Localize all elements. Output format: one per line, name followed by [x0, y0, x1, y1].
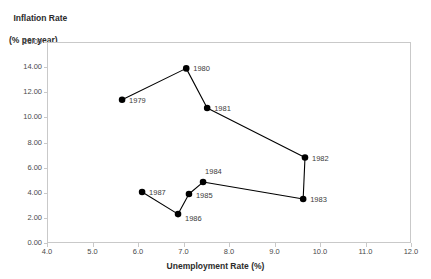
data-point-marker: [175, 211, 182, 218]
x-axis-title: Unemployment Rate (%): [0, 261, 431, 271]
data-point-label: 1983: [310, 196, 327, 204]
data-point-label: 1979: [129, 97, 146, 105]
data-point-marker: [302, 154, 309, 161]
data-point-label: 1987: [149, 189, 166, 197]
data-point-marker: [204, 105, 211, 112]
data-point-label: 1985: [196, 192, 213, 200]
phillips-curve-chart: Inflation Rate (% per year) 0.002.004.00…: [0, 0, 431, 279]
data-point-marker: [119, 96, 126, 103]
data-point-label: 1984: [205, 168, 222, 176]
data-point-marker: [200, 179, 207, 186]
data-point-marker: [139, 189, 146, 196]
data-point-label: 1980: [193, 65, 210, 73]
data-point-label: 1981: [214, 105, 231, 113]
data-point-marker: [183, 65, 190, 72]
data-series: [0, 0, 431, 279]
data-point-marker: [300, 196, 307, 203]
data-point-label: 1982: [312, 155, 329, 163]
data-point-marker: [186, 191, 193, 198]
data-point-label: 1986: [185, 215, 202, 223]
